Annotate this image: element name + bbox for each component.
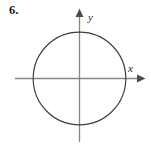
coordinate-graph: y x xyxy=(0,0,151,148)
x-axis-label: x xyxy=(127,62,133,74)
y-axis-arrowhead xyxy=(76,9,84,18)
x-axis-arrowhead xyxy=(137,74,146,82)
figure-container: 6. y x xyxy=(0,0,151,148)
y-axis-label: y xyxy=(87,11,93,23)
